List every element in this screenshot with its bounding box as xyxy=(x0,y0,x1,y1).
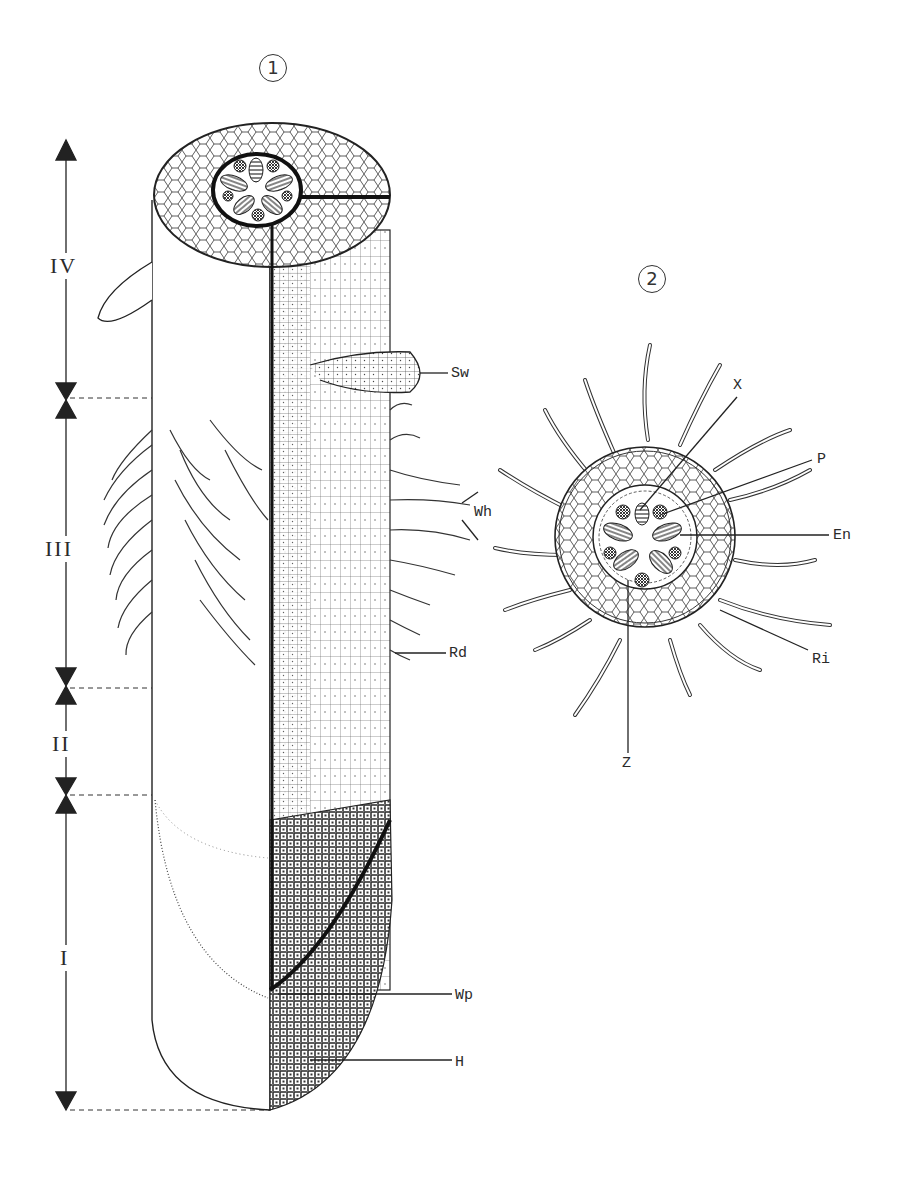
label-ri: Ri xyxy=(812,652,830,667)
label-x: X xyxy=(733,378,742,393)
zone-label-ii: II xyxy=(52,731,71,757)
cross-section xyxy=(495,345,830,715)
zone-label-i: I xyxy=(60,945,69,971)
label-rd: Rd xyxy=(449,646,467,661)
root-anatomy-diagram: 1 2 IV III II I Sw Wh Rd Wp H X P En Ri … xyxy=(0,0,903,1179)
label-p: P xyxy=(817,452,826,467)
diagram-drawing xyxy=(0,0,903,1179)
label-wp: Wp xyxy=(455,988,473,1003)
label-h: H xyxy=(455,1055,464,1070)
label-en: En xyxy=(833,528,851,543)
root-tip-meristem xyxy=(270,800,392,1110)
figure-2-number: 2 xyxy=(638,265,666,293)
zone-label-iv: IV xyxy=(50,253,77,279)
root-outer-surface xyxy=(152,200,270,1110)
root-hairs-right xyxy=(390,403,470,660)
label-wh: Wh xyxy=(474,505,492,520)
label-sw: Sw xyxy=(451,366,469,381)
zone-label-iii: III xyxy=(45,536,73,562)
label-z: Z xyxy=(622,756,631,771)
figure-1-number: 1 xyxy=(259,54,287,82)
